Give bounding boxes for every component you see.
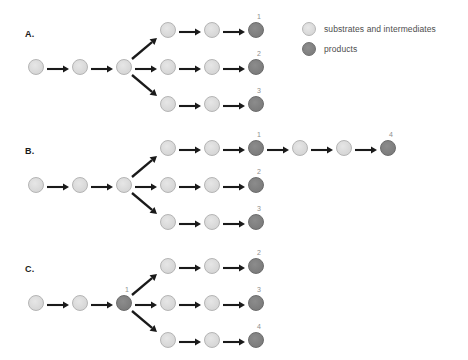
panel-a-branch-up-0-substrate-node	[160, 22, 176, 38]
panel-a-branch-up-2-product-node	[248, 22, 264, 38]
legend-item-2: products	[302, 42, 357, 56]
panel-b-label: B.	[25, 146, 34, 156]
panel-a-branch-middle-0-arrow-right-icon	[179, 61, 201, 73]
panel-b-trunk-1-substrate-node	[72, 177, 88, 193]
panel-b-branch-down-0-substrate-node	[160, 214, 176, 230]
panel-a-trunk-1-substrate-node	[72, 59, 88, 75]
panel-a-label: A.	[25, 29, 34, 39]
panel-b-trunk-0-arrow-right-icon	[47, 179, 69, 191]
panel-b-extension-2-product-node	[380, 140, 396, 156]
panel-c-branch-middle-2-product-node	[248, 295, 264, 311]
legend-item-1: substrates and intermediates	[302, 22, 436, 36]
dark-circle-icon	[302, 42, 316, 56]
panel-b-extension-0-arrow-right-icon	[311, 142, 333, 154]
panel-c-branch-down-1-substrate-node	[204, 332, 220, 348]
panel-a-branch-down-0-arrow-right-icon	[179, 98, 201, 110]
pathway-diagram: A.123B.1234C.1234substrates and intermed…	[0, 0, 468, 360]
panel-b-extension-0-substrate-node	[292, 140, 308, 156]
panel-b-branch-middle-1-substrate-node	[204, 177, 220, 193]
panel-c-trunk-1-substrate-node	[72, 295, 88, 311]
panel-b-branch-up-0-arrow-right-icon	[179, 142, 201, 154]
panel-c-branch-down-2-product-node	[248, 332, 264, 348]
panel-b-branch-down-2-product-node	[248, 214, 264, 230]
panel-a-branch-middle-2-product-node	[248, 59, 264, 75]
panel-c-branch-middle-0-arrow-right-icon	[179, 297, 201, 309]
panel-c-trunk-1-arrow-right-icon	[91, 297, 113, 309]
panel-b-branch-middle-2-product-node	[248, 177, 264, 193]
panel-c-branch-down-2-node-number: 4	[257, 323, 261, 330]
panel-b-branch-middle-2-node-number: 2	[257, 168, 261, 175]
panel-c-branch-up-1-substrate-node	[204, 258, 220, 274]
panel-b-branch-up-0-substrate-node	[160, 140, 176, 156]
panel-a-branch-down-1-arrow-right-icon	[223, 98, 245, 110]
panel-c-branch-down-1-arrow-right-icon	[223, 334, 245, 346]
panel-b-trunk-1-arrow-right-icon	[91, 179, 113, 191]
panel-b-branch-up-1-arrow-right-icon	[223, 142, 245, 154]
panel-a-branch-up-1-substrate-node	[204, 22, 220, 38]
panel-b-branch-down-2-node-number: 3	[257, 205, 261, 212]
legend-label-2: products	[324, 44, 357, 54]
panel-c-branch-up-2-product-node	[248, 258, 264, 274]
panel-b-branch-middle-0-arrow-right-icon	[179, 179, 201, 191]
panel-a-branch-down-2-node-number: 3	[257, 87, 261, 94]
panel-c-branch-down-0-arrow-right-icon	[179, 334, 201, 346]
panel-c-branch-down-0-substrate-node	[160, 332, 176, 348]
panel-b-extension-1-substrate-node	[336, 140, 352, 156]
legend-label-1: substrates and intermediates	[324, 24, 436, 34]
panel-a-branch-up-0-arrow-right-icon	[179, 24, 201, 36]
light-circle-icon	[302, 22, 316, 36]
panel-b-branch-down-0-arrow-right-icon	[179, 216, 201, 228]
panel-a-branch-down-0-substrate-node	[160, 96, 176, 112]
panel-a-branch-middle-1-substrate-node	[204, 59, 220, 75]
panel-c-branch-up-0-arrow-right-icon	[179, 260, 201, 272]
panel-c-branch-middle-1-substrate-node	[204, 295, 220, 311]
panel-a-branch-down-1-substrate-node	[204, 96, 220, 112]
panel-c-branch-middle-1-arrow-right-icon	[223, 297, 245, 309]
panel-b-branch-up-1-substrate-node	[204, 140, 220, 156]
panel-c-branch-middle-2-node-number: 3	[257, 286, 261, 293]
panel-b-branch-down-1-substrate-node	[204, 214, 220, 230]
panel-a-branch-middle-1-arrow-right-icon	[223, 61, 245, 73]
panel-a-branch-middle-2-node-number: 2	[257, 50, 261, 57]
panel-b-extension--1-arrow-right-icon	[267, 142, 289, 154]
panel-a-trunk-0-substrate-node	[28, 59, 44, 75]
panel-c-branch-up-0-substrate-node	[160, 258, 176, 274]
panel-b-extension-1-arrow-right-icon	[355, 142, 377, 154]
panel-b-trunk-0-substrate-node	[28, 177, 44, 193]
panel-c-trunk-0-arrow-right-icon	[47, 297, 69, 309]
panel-b-extension-2-node-number: 4	[389, 131, 393, 138]
panel-a-trunk-1-arrow-right-icon	[91, 61, 113, 73]
panel-a-branch-down-2-product-node	[248, 96, 264, 112]
panel-c-label: C.	[25, 264, 34, 274]
panel-b-branch-up-2-product-node	[248, 140, 264, 156]
panel-a-branch-up-2-node-number: 1	[257, 13, 261, 20]
panel-b-branch-up-2-node-number: 1	[257, 131, 261, 138]
panel-c-trunk-0-substrate-node	[28, 295, 44, 311]
panel-c-branch-up-2-node-number: 2	[257, 249, 261, 256]
panel-b-branch-middle-1-arrow-right-icon	[223, 179, 245, 191]
panel-b-branch-down-1-arrow-right-icon	[223, 216, 245, 228]
panel-a-trunk-0-arrow-right-icon	[47, 61, 69, 73]
panel-a-branch-up-1-arrow-right-icon	[223, 24, 245, 36]
panel-c-branch-up-1-arrow-right-icon	[223, 260, 245, 272]
